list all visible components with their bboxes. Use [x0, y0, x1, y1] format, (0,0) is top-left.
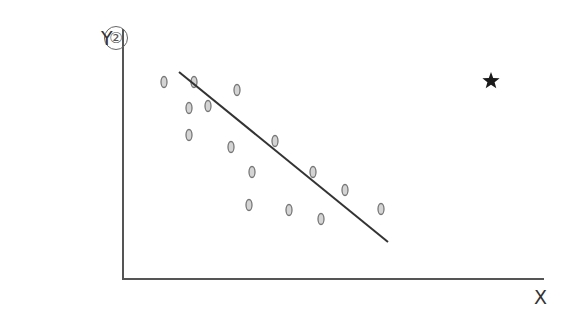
data-point — [286, 205, 292, 216]
axes — [122, 29, 544, 280]
data-point — [246, 200, 252, 211]
star-icon — [482, 72, 499, 88]
data-point — [161, 77, 167, 88]
y-axis-label: Y — [101, 27, 113, 49]
data-point — [378, 204, 384, 215]
data-point — [205, 101, 211, 112]
data-point — [310, 167, 316, 178]
trend-line — [179, 72, 388, 242]
data-point — [228, 142, 234, 153]
data-point — [186, 130, 192, 141]
data-point — [249, 167, 255, 178]
data-point — [272, 136, 278, 147]
scatter-figure — [0, 0, 576, 317]
data-point — [318, 214, 324, 225]
data-point — [186, 103, 192, 114]
x-axis-label: X — [534, 286, 547, 308]
data-points — [161, 77, 384, 225]
data-point — [234, 85, 240, 96]
data-point — [342, 185, 348, 196]
